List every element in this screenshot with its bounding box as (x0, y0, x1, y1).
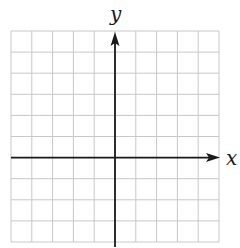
x-axis-label: x (226, 146, 237, 170)
coordinate-grid: x y (0, 0, 240, 248)
axes (11, 32, 220, 247)
y-axis-label: y (109, 2, 122, 26)
